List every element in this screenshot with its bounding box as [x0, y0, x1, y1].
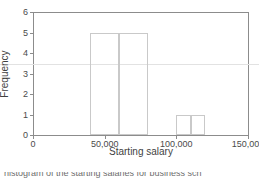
plot-frame-top-border: [33, 12, 249, 13]
y-axis-line: [33, 12, 34, 136]
plot-area: 0123456 050,000100,000150,000: [33, 12, 249, 136]
y-tick-label: 1: [23, 110, 28, 119]
cutoff-caption-strip: histogram of the starting salaries for b…: [0, 172, 259, 180]
y-tick-label: 4: [23, 49, 28, 58]
y-tick-label: 2: [23, 90, 28, 99]
y-axis-title: Frequency: [0, 50, 10, 97]
y-tick-mark: [30, 94, 33, 95]
histogram-bar: [191, 115, 205, 136]
histogram-figure: 0123456 050,000100,000150,000 Starting s…: [0, 0, 259, 180]
histogram-bar: [90, 33, 119, 136]
y-tick-mark: [30, 115, 33, 116]
y-tick-label: 5: [23, 28, 28, 37]
y-tick-label: 3: [23, 69, 28, 78]
y-tick-mark: [30, 74, 33, 75]
cutoff-caption-text: histogram of the starting salaries for b…: [4, 172, 202, 178]
y-tick-mark: [30, 53, 33, 54]
histogram-bar: [176, 115, 190, 136]
gridline-right-extension: [249, 64, 259, 65]
x-axis-line: [33, 135, 249, 136]
plot-frame-right-border: [248, 12, 249, 136]
histogram-bar: [119, 33, 148, 136]
x-axis-title: Starting salary: [33, 146, 249, 157]
y-tick-mark: [30, 12, 33, 13]
y-tick-label: 0: [23, 131, 28, 140]
y-tick-label: 6: [23, 8, 28, 17]
y-tick-mark: [30, 33, 33, 34]
